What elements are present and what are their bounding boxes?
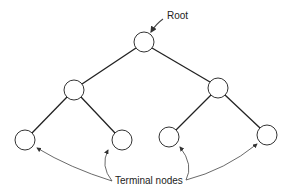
terminal-node-2	[112, 130, 132, 150]
edge-root-right	[152, 48, 210, 82]
edge-left-leaf1	[32, 97, 67, 133]
internal-node-right	[208, 78, 228, 98]
binary-tree-diagram: Root Terminal nodes	[0, 0, 290, 187]
edge-left-leaf2	[81, 97, 115, 133]
internal-node-left	[64, 80, 84, 100]
terminal-node-4	[257, 125, 277, 145]
pointer-to-leaf4	[186, 144, 257, 180]
pointer-to-leaf2	[105, 150, 112, 181]
terminal-node-1	[15, 130, 35, 150]
root-pointer-arrow	[151, 19, 163, 32]
edge-right-leaf3	[176, 95, 211, 130]
terminal-node-3	[159, 127, 179, 147]
root-node	[134, 32, 154, 52]
edge-right-leaf4	[225, 95, 260, 128]
terminal-nodes-label: Terminal nodes	[115, 175, 183, 186]
edge-root-left	[82, 48, 136, 84]
tree-nodes	[15, 32, 277, 150]
root-label: Root	[167, 10, 188, 21]
pointer-to-leaf1	[37, 148, 112, 181]
